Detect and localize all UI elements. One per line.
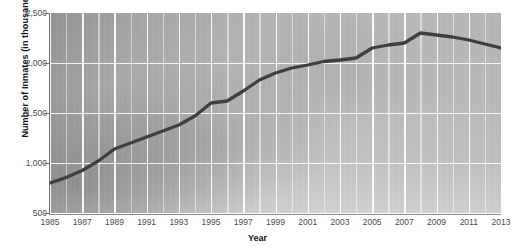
- x-axis-tick-label: 2009: [420, 217, 454, 228]
- y-axis-tick-label: 2,500: [5, 9, 47, 18]
- y-axis-tick-mark: [44, 113, 49, 114]
- chart-title-text: Number of Inmates in U.S. Prisons and Ja…: [0, 0, 515, 2]
- x-axis-tick-label: 1987: [65, 217, 99, 228]
- x-axis-tick-labels: 1985198719891991199319951997199920012003…: [0, 217, 515, 231]
- x-axis-tick-label: 2005: [355, 217, 389, 228]
- x-axis-title: Year: [0, 233, 515, 243]
- x-axis-tick-label: 1999: [259, 217, 293, 228]
- plot-area: [50, 13, 501, 213]
- x-axis-tick-label: 1985: [33, 217, 67, 228]
- x-axis-tick-label: 1995: [194, 217, 228, 228]
- x-axis-tick-label: 2011: [452, 217, 486, 228]
- line-path-inmates: [50, 33, 501, 183]
- y-axis-tick-mark: [44, 13, 49, 14]
- y-axis-tick-label: 1,500: [5, 109, 47, 118]
- y-axis-tick-label: 1,000: [5, 159, 47, 168]
- x-axis-tick-label: 2007: [387, 217, 421, 228]
- x-axis-tick-label: 2001: [291, 217, 325, 228]
- y-axis-tick-label: 2,000: [5, 59, 47, 68]
- x-axis-tick-label: 2003: [323, 217, 357, 228]
- x-axis-tick-label: 1997: [226, 217, 260, 228]
- y-axis-tick-mark: [44, 63, 49, 64]
- x-axis-tick-label: 1991: [130, 217, 164, 228]
- x-axis-tick-label: 1993: [162, 217, 196, 228]
- chart-title-cropped: Number of Inmates in U.S. Prisons and Ja…: [0, 0, 515, 2]
- data-series-inmates: [50, 13, 501, 213]
- y-axis-tick-labels: 2,5002,0001,5001,000500: [0, 0, 47, 248]
- x-axis-line: [49, 214, 501, 215]
- y-axis-tick-mark: [44, 213, 49, 214]
- x-axis-tick-label: 2013: [484, 217, 515, 228]
- x-axis-tick-label: 1989: [97, 217, 131, 228]
- y-axis-tick-mark: [44, 163, 49, 164]
